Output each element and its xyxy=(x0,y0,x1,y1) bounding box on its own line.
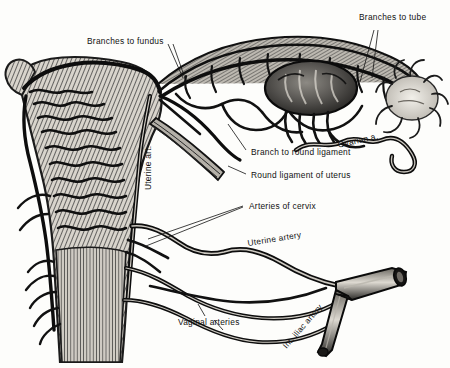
vaginal-arteries xyxy=(124,268,338,342)
leader-arteries-of-cervix-a xyxy=(148,206,243,239)
illustration-canvas xyxy=(0,0,450,368)
label-branch-to-round-ligament: Branch to round ligament xyxy=(251,148,351,156)
label-branches-to-tube: Branches to tube xyxy=(359,13,426,21)
round-ligament xyxy=(150,96,240,180)
label-arteries-of-cervix: Arteries of cervix xyxy=(249,202,316,210)
ovary xyxy=(265,61,357,144)
label-branches-to-fundus: Branches to fundus xyxy=(87,37,164,45)
label-uterine-art-vertical: Uterine art. xyxy=(144,146,152,190)
leader-round-ligament xyxy=(228,166,246,174)
uterus-body xyxy=(5,57,161,362)
label-round-ligament-of-uterus: Round ligament of uterus xyxy=(251,171,351,179)
label-vaginal-arteries: Vaginal arteries xyxy=(178,318,240,326)
internal-iliac-artery xyxy=(318,267,408,356)
anatomical-figure: Branches to fundus Branches to tube Ovar… xyxy=(0,0,450,368)
leader-arteries-of-cervix-b xyxy=(146,207,243,246)
